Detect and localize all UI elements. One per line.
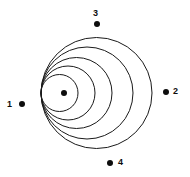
circle-4 xyxy=(41,47,133,139)
point-label-1: 1 xyxy=(7,100,12,109)
point-dot-2 xyxy=(163,89,169,95)
circle-5 xyxy=(41,38,152,149)
circle-2 xyxy=(41,66,95,120)
point-label-4: 4 xyxy=(118,158,123,167)
center-dot xyxy=(61,90,67,96)
point-label-2: 2 xyxy=(173,87,178,96)
point-dot-4 xyxy=(107,160,113,166)
circle-1 xyxy=(41,75,78,112)
circle-group xyxy=(41,38,152,149)
point-label-3: 3 xyxy=(93,9,98,18)
circle-3 xyxy=(41,58,112,129)
figure-canvas: 1 2 3 4 xyxy=(0,0,190,177)
circles-diagram xyxy=(0,0,190,177)
point-dot-3 xyxy=(94,21,100,27)
point-dot-1 xyxy=(19,101,25,107)
